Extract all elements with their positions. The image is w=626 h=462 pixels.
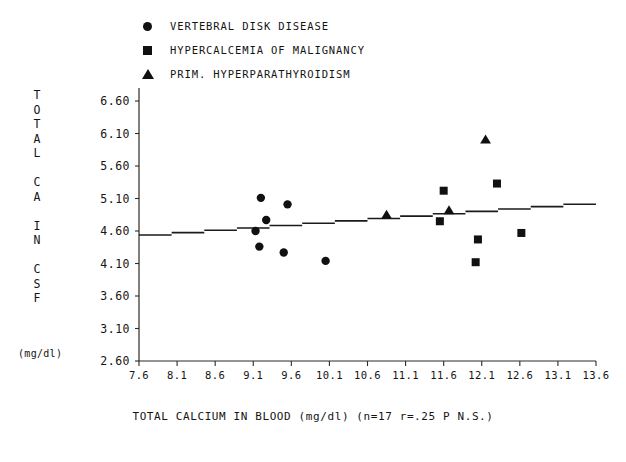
data-point-circle [280, 248, 288, 256]
data-point-square [474, 235, 482, 243]
data-point-square [436, 217, 444, 225]
y-tick-label: 6.10 [100, 127, 130, 141]
y-tick-label: 2.60 [100, 354, 130, 368]
data-point-square [517, 229, 525, 237]
x-axis-title: TOTAL CALCIUM IN BLOOD (mg/dl) (n=17 r=.… [0, 410, 626, 423]
x-tick-label: 11.6 [430, 369, 457, 381]
y-tick-label: 3.10 [100, 322, 130, 336]
data-point-triangle [381, 210, 392, 219]
data-point-circle [283, 200, 291, 208]
data-point-square [472, 258, 480, 266]
data-point-circle [257, 194, 265, 202]
x-tick-label: 12.6 [506, 369, 533, 381]
y-tick-label: 5.60 [100, 159, 130, 173]
y-tick-label: 5.10 [100, 192, 130, 206]
data-point-triangle [480, 134, 491, 143]
data-point-square [440, 187, 448, 195]
chart-root: VERTEBRAL DISK DISEASE HYPERCALCEMIA OF … [0, 0, 626, 462]
x-tick-label: 11.1 [392, 369, 419, 381]
axis-lines [139, 88, 596, 361]
data-point-square [493, 180, 501, 188]
plot-area: 2.603.103.604.104.605.105.606.106.607.68… [0, 0, 626, 462]
x-tick-label: 7.6 [129, 369, 149, 381]
data-point-triangle [444, 205, 455, 214]
x-tick-label: 10.6 [354, 369, 381, 381]
x-tick-label: 12.1 [468, 369, 495, 381]
y-tick-label: 4.60 [100, 224, 130, 238]
x-tick-label: 8.1 [167, 369, 187, 381]
regression-line [139, 204, 596, 235]
x-tick-label: 9.6 [281, 369, 301, 381]
data-point-circle [251, 227, 259, 235]
data-point-circle [262, 216, 270, 224]
data-point-circle [321, 257, 329, 265]
y-tick-label: 6.60 [100, 94, 130, 108]
y-tick-label: 4.10 [100, 257, 130, 271]
x-tick-label: 13.6 [583, 369, 610, 381]
x-tick-label: 9.1 [243, 369, 263, 381]
x-tick-label: 10.1 [316, 369, 343, 381]
data-point-circle [255, 242, 263, 250]
x-tick-label: 13.1 [544, 369, 571, 381]
y-tick-label: 3.60 [100, 289, 130, 303]
x-tick-label: 8.6 [205, 369, 225, 381]
